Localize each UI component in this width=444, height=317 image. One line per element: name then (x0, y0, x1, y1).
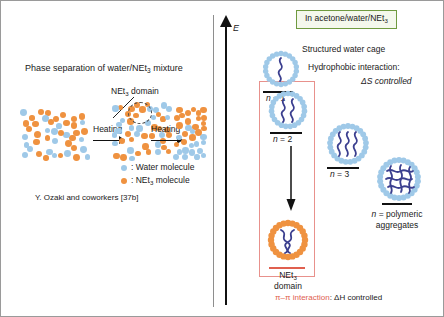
net3-molecule-dot (119, 138, 125, 144)
water-molecule-dot (85, 154, 90, 159)
water-molecule-dot (20, 109, 27, 116)
net3-dot-icon (121, 178, 127, 184)
water-molecule-dot (112, 105, 119, 112)
water-molecule-dot (165, 115, 170, 120)
water-molecule-dot (112, 132, 117, 137)
water-molecule-dot (166, 106, 172, 112)
net3-molecule-dot (36, 151, 42, 157)
net3-molecule-dot (26, 126, 33, 133)
net3-label-sub: 3 (293, 274, 296, 281)
water-molecule-dot (136, 125, 143, 132)
net3-molecule-dot (34, 131, 41, 138)
water-molecule-dot (63, 132, 69, 138)
net3-molecule-dot (33, 139, 40, 146)
net3-molecule-dot (135, 151, 141, 157)
legend-net3-post: molecule (153, 175, 189, 185)
water-molecule-dot (22, 152, 28, 158)
water-molecule-dot (194, 141, 199, 146)
net3-molecule-dot (181, 139, 187, 145)
net3-molecule-dot (32, 121, 38, 127)
cluster-separated (173, 105, 207, 161)
net3-molecule-dot (58, 130, 64, 136)
water-molecule-dot (173, 154, 179, 160)
water-molecule-dot (45, 128, 51, 134)
condition-box: In acetone/water/NEt3 (296, 10, 397, 29)
net3-molecule-dot (201, 126, 206, 131)
energy-axis-label: E (233, 23, 239, 33)
net3-domain-cage (264, 216, 312, 264)
water-cage-n2-svg (265, 87, 311, 133)
water-molecule-dot (79, 137, 84, 142)
pipi-interaction-note: π–π interaction: ΔH controlled (275, 293, 382, 302)
callout-post: domain (129, 86, 159, 96)
water-cage-n3 (323, 119, 373, 169)
water-molecule-dot (127, 147, 133, 153)
net3-cage-dot (280, 220, 286, 226)
net3-molecule-dot (179, 113, 185, 119)
delta-s-controlled-label: ΔS controlled (361, 77, 412, 87)
polymeric-aggregates-label: n = polymeric aggregates (353, 209, 441, 230)
water-cage-poly-svg (373, 153, 425, 205)
net3-molecule-dot (118, 105, 123, 110)
water-molecule-dot (151, 115, 156, 120)
net3-domain-callout: NEt3 domain (111, 87, 159, 97)
water-molecule-dot (80, 120, 85, 125)
net3-molecule-dot (53, 116, 59, 122)
net3-molecule-dot (141, 133, 147, 139)
figure-container: Phase separation of water/NEt3 mixture N… (0, 0, 444, 317)
water-cage-dot (274, 51, 279, 56)
net3-molecule-dot (79, 113, 86, 120)
n2-label: n = 2 (273, 134, 292, 144)
water-molecule-dot (52, 138, 58, 144)
water-molecule-dot (56, 123, 62, 129)
water-cage-n3-svg (323, 119, 373, 169)
net3-molecule-dot (129, 137, 134, 142)
hydrophobic-interaction-label: Hydrophobic interaction: (308, 63, 400, 73)
net3-molecule-dot (195, 129, 202, 136)
net3-molecule-dot (23, 120, 30, 127)
net3-molecule-dot (174, 142, 179, 147)
cluster-mixed (19, 109, 91, 161)
water-molecule-dot (80, 146, 87, 153)
water-cage-polymeric (373, 153, 425, 205)
water-molecule-dot (22, 134, 28, 140)
credit-text: Y. Ozaki and coworkers [37b] (35, 193, 138, 202)
left-title-pre: Phase separation of water/NEt (25, 63, 147, 73)
water-cage-dot (391, 158, 397, 164)
net3-domain-rule (269, 267, 305, 269)
n3-value: = 3 (335, 169, 349, 179)
left-title-post: mixture (151, 63, 183, 73)
water-cage-dot (281, 91, 287, 97)
net3-molecule-dot (71, 122, 78, 129)
net3-molecule-dot (185, 118, 192, 125)
legend-item-net3: : NEt3 molecule (121, 174, 194, 187)
net3-molecule-dot (189, 134, 195, 140)
water-cage-n1-svg (259, 47, 303, 91)
net3-molecule-dot (58, 153, 64, 159)
net3-molecule-dot (185, 110, 191, 116)
water-molecule-dot (194, 154, 200, 160)
net3-molecule-dot (201, 115, 207, 121)
water-molecule-dot (52, 153, 57, 158)
net3-molecule-dot (176, 122, 183, 129)
callout-pre: NEt (111, 86, 125, 96)
net3-molecule-dot (63, 120, 70, 127)
water-molecule-dot (129, 125, 134, 130)
water-molecule-dot (120, 118, 125, 123)
water-molecule-dot (182, 147, 188, 153)
net3-molecule-dot (73, 154, 80, 161)
legend: : Water molecule : NEt3 molecule (121, 161, 194, 187)
pipi-highlight: π–π interaction (275, 293, 330, 302)
water-molecule-dot (201, 153, 206, 158)
water-molecule-dot (176, 135, 181, 140)
water-molecule-dot (189, 143, 194, 148)
net3-molecule-dot (43, 155, 48, 160)
net3-molecule-dot (120, 154, 127, 161)
transition-arrow (286, 146, 296, 212)
legend-label-net3: : NEt3 molecule (131, 176, 190, 186)
panel-divider (213, 15, 214, 307)
water-cage-dot (341, 124, 347, 130)
net3-molecule-dot (166, 149, 171, 154)
net3-molecule-dot (71, 145, 77, 151)
net3-label-pre: NEt (279, 270, 293, 280)
